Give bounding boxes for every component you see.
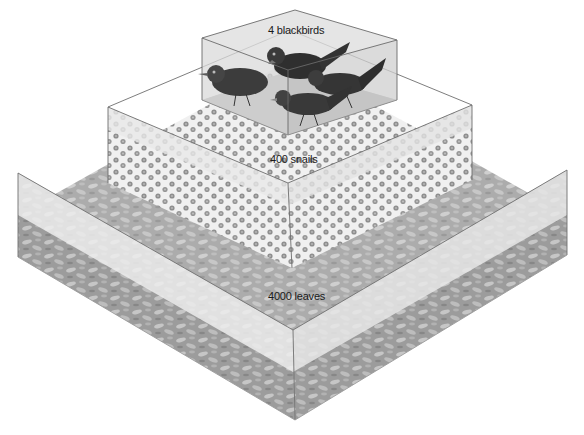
blackbirds-label: 4 blackbirds <box>268 24 324 36</box>
leaves-label: 4000 leaves <box>268 290 325 302</box>
snails-label: 400 snails <box>270 153 318 165</box>
pyramid-of-numbers-diagram: 4 blackbirds 400 snails 4000 leaves <box>0 0 584 435</box>
pyramid-illustration <box>0 0 584 435</box>
